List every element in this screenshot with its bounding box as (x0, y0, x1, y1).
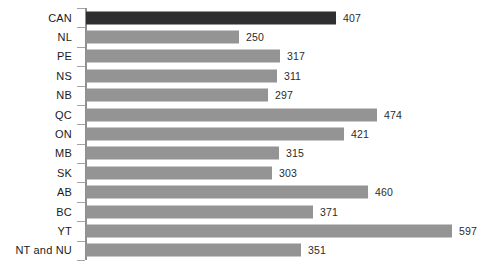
value-label-ns: 311 (284, 70, 301, 82)
bar-on (86, 127, 344, 140)
category-label-wrapper: NL (0, 27, 72, 46)
category-label-ab: AB (0, 186, 72, 198)
axis-tick (77, 66, 85, 67)
bar-row: BC371 (0, 202, 499, 221)
category-label-nt-and-nu: NT and NU (0, 244, 72, 256)
category-label-sk: SK (0, 167, 72, 179)
value-label-qc: 474 (384, 109, 402, 121)
axis-tick (77, 8, 85, 9)
value-label-on: 421 (351, 128, 369, 140)
axis-tick (77, 86, 85, 87)
category-label-bc: BC (0, 206, 72, 218)
bar-row: PE317 (0, 47, 499, 66)
bar-ns (86, 69, 277, 82)
bar-sk (86, 166, 272, 179)
bar-row: YT597 (0, 221, 499, 240)
value-label-can: 407 (343, 12, 361, 24)
value-label-nb: 297 (275, 89, 293, 101)
bar-pe (86, 50, 280, 63)
bar-nt-and-nu (86, 244, 301, 257)
bar-row: NS311 (0, 66, 499, 85)
axis-tick (77, 105, 85, 106)
category-label-wrapper: NT and NU (0, 241, 72, 260)
category-label-wrapper: NS (0, 66, 72, 85)
bar-row: MB315 (0, 144, 499, 163)
axis-tick (77, 47, 85, 48)
plot-area: CAN407NL250PE317NS311NB297QC474ON421MB31… (0, 0, 499, 274)
axis-tick (77, 241, 85, 242)
bar-mb (86, 147, 279, 160)
bar-row: CAN407 (0, 8, 499, 27)
category-label-qc: QC (0, 109, 72, 121)
bar-row: QC474 (0, 105, 499, 124)
bar-nl (86, 31, 239, 44)
bar-nb (86, 89, 268, 102)
value-label-nt-and-nu: 351 (308, 244, 326, 256)
category-label-nb: NB (0, 89, 72, 101)
axis-tick (77, 144, 85, 145)
axis-tick (77, 260, 85, 261)
category-label-pe: PE (0, 50, 72, 62)
bar-can (86, 11, 336, 24)
category-label-wrapper: AB (0, 182, 72, 201)
bar-row: AB460 (0, 182, 499, 201)
bar-qc (86, 108, 377, 121)
axis-tick (77, 124, 85, 125)
bar-row: NT and NU351 (0, 241, 499, 260)
bar-chart: CAN407NL250PE317NS311NB297QC474ON421MB31… (0, 0, 499, 274)
value-label-ab: 460 (375, 186, 393, 198)
axis-tick (77, 27, 85, 28)
bar-ab (86, 186, 368, 199)
value-label-yt: 597 (459, 225, 477, 237)
category-label-can: CAN (0, 12, 72, 24)
axis-tick (77, 202, 85, 203)
category-label-wrapper: ON (0, 124, 72, 143)
bar-row: NL250 (0, 27, 499, 46)
value-label-sk: 303 (279, 167, 297, 179)
category-label-on: ON (0, 128, 72, 140)
category-label-wrapper: YT (0, 221, 72, 240)
bar-yt (86, 224, 452, 237)
category-label-ns: NS (0, 70, 72, 82)
value-label-pe: 317 (287, 50, 305, 62)
bar-row: ON421 (0, 124, 499, 143)
bar-row: NB297 (0, 86, 499, 105)
value-label-bc: 371 (320, 206, 338, 218)
category-label-wrapper: NB (0, 86, 72, 105)
category-label-wrapper: BC (0, 202, 72, 221)
category-label-wrapper: PE (0, 47, 72, 66)
category-label-wrapper: CAN (0, 8, 72, 27)
axis-tick (77, 182, 85, 183)
category-label-wrapper: MB (0, 144, 72, 163)
category-label-wrapper: SK (0, 163, 72, 182)
category-label-yt: YT (0, 225, 72, 237)
bar-bc (86, 205, 313, 218)
category-label-mb: MB (0, 147, 72, 159)
axis-tick (77, 221, 85, 222)
category-label-nl: NL (0, 31, 72, 43)
bar-row: SK303 (0, 163, 499, 182)
value-label-mb: 315 (286, 147, 304, 159)
value-label-nl: 250 (246, 31, 264, 43)
category-label-wrapper: QC (0, 105, 72, 124)
axis-tick (77, 163, 85, 164)
